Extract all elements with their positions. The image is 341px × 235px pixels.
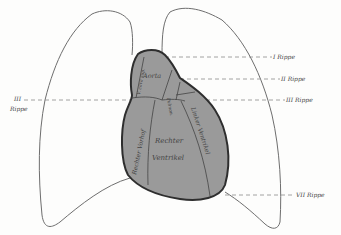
heart-shape	[122, 50, 228, 200]
right-lung-outline	[39, 11, 132, 227]
label-right-ventricle-2: Ventrikel	[152, 154, 184, 162]
diagram-canvas: Aorta V. cava sup. Pulmon. Rechter Vorho…	[0, 0, 341, 235]
label-rib-3-left-2: Rippe	[9, 105, 28, 113]
heart-lung-diagram: Aorta V. cava sup. Pulmon. Rechter Vorho…	[0, 0, 341, 235]
label-rib-7: VII Rippe	[296, 191, 325, 199]
label-rib-3-left-1: III	[13, 95, 22, 102]
label-right-ventricle-1: Rechter	[154, 137, 184, 145]
right-lung-inner	[130, 22, 133, 55]
label-rib-1: I Rippe	[272, 53, 295, 61]
label-rib-2: II Rippe	[280, 75, 306, 83]
label-rib-3-right: III Rippe	[285, 96, 313, 104]
label-aorta: Aorta	[142, 72, 161, 80]
